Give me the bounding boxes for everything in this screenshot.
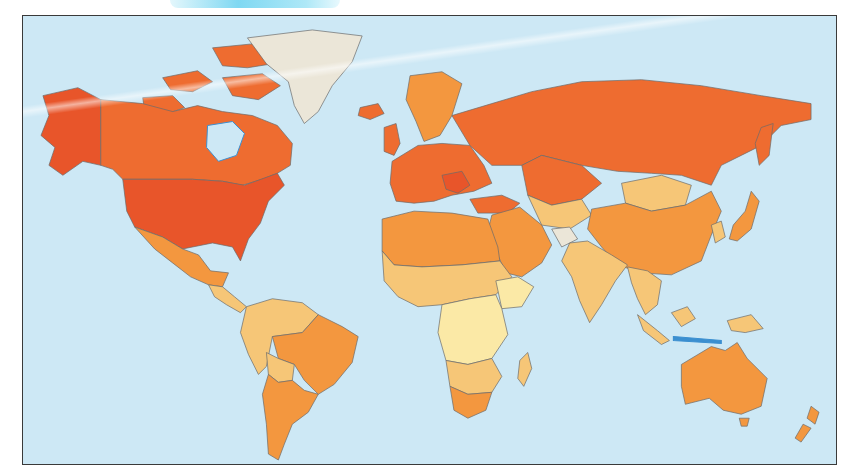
region-alaska <box>41 88 101 176</box>
region-north-africa <box>382 211 500 267</box>
region-tasmania <box>739 418 749 426</box>
scan-smudge <box>170 0 340 8</box>
map-svg <box>23 16 836 464</box>
world-map <box>22 15 837 465</box>
